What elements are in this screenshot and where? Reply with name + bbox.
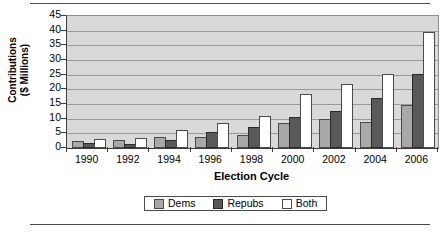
y-axis-tick-label: 45 [49,9,61,20]
chart-figure: Contributions ($ Millions) 4540353025201… [0,0,447,232]
legend-swatch-repubs-icon [213,199,223,209]
x-axis-tick-label-1996: 1996 [187,153,233,165]
x-axis-tick-mark [231,147,232,152]
legend-entry-both: Both [282,198,318,209]
bar-group-2006 [401,16,433,148]
x-axis-tick-label-1990: 1990 [64,153,110,165]
bar-group-2002 [319,16,351,148]
legend-swatch-dems-icon [154,199,164,209]
y-axis-tick-mark [61,88,66,89]
bar-group-1996 [195,16,227,148]
x-axis-tick-mark [355,147,356,152]
legend-label: Both [296,198,318,209]
top-divider-rule [30,3,430,4]
bar-both-2000 [300,94,312,148]
x-axis-tick-mark [272,147,273,152]
y-axis-tick-label: 20 [49,82,61,93]
y-axis-tick-mark [61,132,66,133]
legend-swatch-both-icon [282,199,292,209]
bar-group-2004 [360,16,392,148]
plot-area [66,15,439,149]
y-axis-tick-labels: 454035302520151050 [28,8,61,154]
y-axis-tick-mark [61,74,66,75]
y-axis-tick-mark [61,59,66,60]
x-axis-tick-label-2004: 2004 [352,153,398,165]
y-axis-tick-mark [61,15,66,16]
x-axis-tick-mark [313,147,314,152]
y-axis-tick-label: 25 [49,68,61,79]
bar-both-2004 [382,74,394,148]
x-axis-tick-label-1998: 1998 [229,153,275,165]
y-axis-tick-mark [61,44,66,45]
chart-legend: DemsRepubsBoth [144,196,327,211]
bar-both-1990 [94,139,106,148]
legend-label: Repubs [227,198,263,209]
bar-both-2006 [423,32,435,148]
y-axis-tick-label: 10 [49,112,61,123]
y-axis-tick-mark [61,118,66,119]
x-axis-tick-mark [396,147,397,152]
y-axis-tick-label: 15 [49,97,61,108]
x-axis-tick-label-1992: 1992 [105,153,151,165]
y-axis-tick-label: 35 [49,38,61,49]
bar-both-1994 [176,130,188,148]
y-axis-tick-mark [61,30,66,31]
x-axis-tick-mark [107,147,108,152]
x-axis-tick-label-2006: 2006 [393,153,439,165]
bar-group-2000 [278,16,310,148]
y-axis-tick-mark [61,103,66,104]
bar-group-1992 [113,16,145,148]
y-axis-tick-label: 30 [49,53,61,64]
bar-both-1992 [135,138,147,148]
x-axis-tick-label-1994: 1994 [146,153,192,165]
bar-both-2002 [341,84,353,148]
legend-entry-repubs: Repubs [213,198,263,209]
x-axis-tick-mark [190,147,191,152]
legend-entry-dems: Dems [154,198,195,209]
x-axis-tick-label-2000: 2000 [270,153,316,165]
x-axis-tick-mark [148,147,149,152]
x-axis-tick-label-2002: 2002 [311,153,357,165]
bottom-divider-rule [30,224,430,225]
legend-label: Dems [168,198,195,209]
bar-group-1998 [237,16,269,148]
x-axis-tick-mark [437,147,438,152]
bar-both-1996 [217,123,229,148]
bar-group-1994 [154,16,186,148]
y-axis-tick-label: 40 [49,24,61,35]
bar-both-1998 [259,116,271,149]
x-axis-tick-mark [66,147,67,152]
x-axis-title: Election Cycle [66,170,437,182]
bar-group-1990 [72,16,104,148]
